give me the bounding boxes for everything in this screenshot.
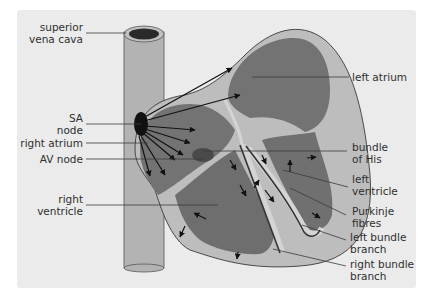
label-superior-vena-cava: superior vena cava — [29, 21, 83, 45]
label-left-bundle-branch: left bundle branch — [350, 231, 406, 255]
label-av-node: AV node — [40, 153, 83, 165]
label-left-atrium: left atrium — [352, 71, 407, 83]
label-right-ventricle: right ventricle — [37, 193, 83, 217]
label-right-atrium: right atrium — [20, 137, 83, 149]
label-left-ventricle: left ventricle — [352, 173, 398, 197]
label-purkinje-fibres: Purkinje fibres — [352, 205, 394, 229]
label-right-bundle-branch: right bundle branch — [350, 258, 414, 282]
label-sa-node: SA node — [57, 112, 83, 136]
av-node — [192, 148, 214, 162]
label-bundle-of-his: bundle of His — [352, 141, 388, 165]
